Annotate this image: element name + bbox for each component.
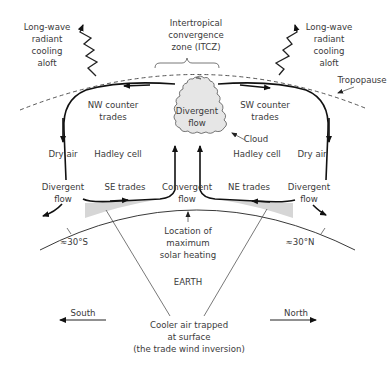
dry-air-right-label: Dry air <box>297 149 327 159</box>
right-circulation-loop <box>218 83 328 180</box>
nw-counter-trades-label: NW counter trades <box>88 100 139 122</box>
north-label: North <box>284 308 308 318</box>
svg-text:Intertropical: Intertropical <box>170 18 222 28</box>
svg-text:trades: trades <box>99 112 127 122</box>
svg-text:NW counter: NW counter <box>88 100 139 110</box>
svg-text:aloft: aloft <box>319 58 339 68</box>
svg-text:cooling: cooling <box>32 46 63 56</box>
hadley-cell-right-label: Hadley cell <box>233 149 280 159</box>
divergent-outflow-left <box>43 204 62 216</box>
arrow-icon <box>124 85 150 86</box>
ne-trades-label: NE trades <box>228 182 271 192</box>
dry-air-left-label: Dry air <box>48 149 78 159</box>
svg-text:Long-wave: Long-wave <box>24 22 71 32</box>
itcz-label: Intertropical convergence zone (ITCZ) <box>168 18 223 52</box>
svg-text:Convergent: Convergent <box>162 182 213 192</box>
hadley-cell-diagram: Long-wave radiant cooling aloft Long-wav… <box>0 0 392 367</box>
hadley-cell-left-label: Hadley cell <box>94 149 141 159</box>
svg-text:flow: flow <box>178 194 196 204</box>
svg-text:cooling: cooling <box>314 46 345 56</box>
longwave-right-label: Long-wave radiant cooling aloft <box>306 22 353 68</box>
se-trades-label: SE trades <box>104 182 146 192</box>
inversion-shading-right <box>222 200 293 218</box>
tropopause-label: Tropopause <box>336 75 386 85</box>
zigzag-arrow-icon <box>80 25 97 76</box>
svg-text:SW counter: SW counter <box>240 100 290 110</box>
svg-text:trades: trades <box>251 112 279 122</box>
pointer-line-right <box>204 209 267 316</box>
convergent-label: Convergent flow <box>162 182 213 204</box>
arrow-icon <box>110 200 128 201</box>
lat-south-label: ≈30°S <box>60 237 88 247</box>
lat-tick-south <box>67 228 71 234</box>
svg-text:Location of: Location of <box>164 226 212 236</box>
svg-text:convergence: convergence <box>168 30 223 40</box>
lat-tick-north <box>321 228 325 234</box>
divergent-left-label: Divergent flow <box>42 182 85 204</box>
svg-text:Divergent: Divergent <box>288 182 331 192</box>
svg-text:at surface: at surface <box>167 332 210 342</box>
svg-text:radiant: radiant <box>314 34 345 44</box>
svg-text:Cooler air trapped: Cooler air trapped <box>150 320 228 330</box>
svg-text:aloft: aloft <box>37 58 57 68</box>
svg-text:solar heating: solar heating <box>160 250 216 260</box>
longwave-left-label: Long-wave radiant cooling aloft <box>24 22 71 68</box>
svg-text:zone (ITCZ): zone (ITCZ) <box>171 42 220 52</box>
svg-text:flow: flow <box>300 194 318 204</box>
inversion-label: Cooler air trapped at surface (the trade… <box>133 320 245 354</box>
zigzag-arrow-icon <box>276 25 297 75</box>
sw-counter-trades-label: SW counter trades <box>240 100 290 122</box>
svg-text:maximum: maximum <box>166 238 209 248</box>
lat-north-label: ≈30°N <box>286 237 315 247</box>
south-label: South <box>71 308 96 318</box>
inversion-shading-left <box>85 200 155 218</box>
svg-text:radiant: radiant <box>32 34 63 44</box>
divergent-outflow-right <box>313 205 326 215</box>
brace-icon <box>155 58 219 68</box>
svg-text:flow: flow <box>54 194 72 204</box>
svg-text:Divergent: Divergent <box>42 182 85 192</box>
svg-text:(the trade wind inversion): (the trade wind inversion) <box>133 344 245 354</box>
pointer-line-left <box>106 210 170 316</box>
left-circulation-loop <box>64 83 175 180</box>
earth-label: EARTH <box>174 277 202 287</box>
svg-text:Divergent: Divergent <box>176 106 219 116</box>
solar-heating-label: Location of maximum solar heating <box>160 226 216 260</box>
svg-text:Long-wave: Long-wave <box>306 22 353 32</box>
svg-text:flow: flow <box>188 118 206 128</box>
cloud-label: Cloud <box>244 134 269 144</box>
arrow-icon <box>240 85 270 88</box>
arrow-icon <box>252 201 270 202</box>
arrow-icon <box>338 87 354 93</box>
